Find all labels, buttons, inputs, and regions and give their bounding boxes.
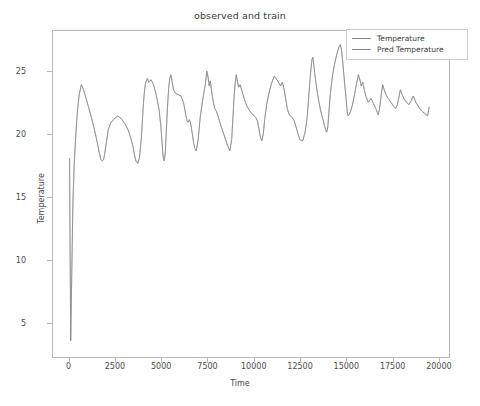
x-tick-mark — [69, 358, 70, 363]
series-line — [70, 45, 430, 341]
legend-line-icon — [352, 38, 371, 39]
y-tick-mark — [47, 134, 52, 135]
series-plot — [53, 31, 449, 357]
y-axis-label: Temperature — [37, 139, 46, 259]
legend-label: Temperature — [377, 34, 425, 43]
legend-line-icon — [352, 49, 371, 50]
y-tick-mark — [47, 260, 52, 261]
plot-area — [52, 30, 450, 358]
y-tick-label: 20 — [0, 130, 26, 139]
x-tick-mark — [207, 358, 208, 363]
y-tick-label: 15 — [0, 193, 26, 202]
x-tick-mark — [115, 358, 116, 363]
y-tick-mark — [47, 197, 52, 198]
y-tick-mark — [47, 71, 52, 72]
chart-title: observed and train — [0, 10, 480, 21]
legend: Temperature Pred Temperature — [346, 29, 468, 60]
x-tick-mark — [393, 358, 394, 363]
x-tick-mark — [161, 358, 162, 363]
series-line — [70, 45, 430, 341]
legend-item-temperature: Temperature — [352, 33, 462, 44]
x-axis-label: Time — [0, 379, 480, 388]
y-tick-label: 10 — [0, 255, 26, 264]
legend-item-pred-temperature: Pred Temperature — [352, 44, 462, 55]
y-tick-label: 5 — [0, 318, 26, 327]
figure-canvas: observed and train Temperature Time 5101… — [0, 0, 480, 406]
x-tick-mark — [346, 358, 347, 363]
y-tick-label: 25 — [0, 67, 26, 76]
x-tick-mark — [254, 358, 255, 363]
legend-label: Pred Temperature — [377, 45, 444, 54]
x-tick-mark — [300, 358, 301, 363]
x-tick-label: 20000 — [409, 362, 469, 371]
x-tick-mark — [439, 358, 440, 363]
y-tick-mark — [47, 323, 52, 324]
